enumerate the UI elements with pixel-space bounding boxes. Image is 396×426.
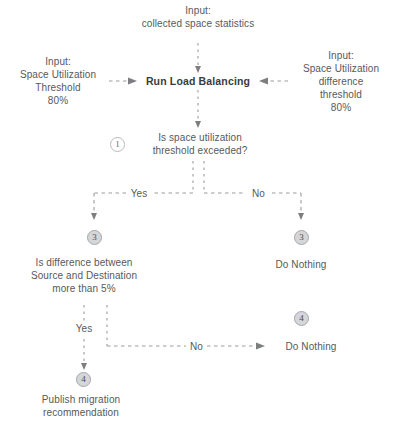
arrowhead-yes-bottom [81, 363, 87, 370]
arrowhead-no-bottom [256, 343, 265, 350]
step-badge-three-left: 3 [87, 230, 102, 245]
arrowhead-decision-one [195, 121, 201, 128]
arrowhead-input-right [259, 78, 268, 85]
arrowhead-input-top [195, 66, 201, 73]
step-badge-four-bottom: 4 [76, 372, 91, 387]
step-badge-one: 1 [110, 137, 125, 152]
edge-label-no-bottom: No [186, 340, 207, 353]
node-input-right: Input: Space Utilization difference thre… [288, 49, 394, 114]
node-decision-two: Is difference between Source and Destina… [18, 256, 150, 295]
arrowhead-yes-top [91, 213, 97, 220]
node-do-nothing-bottom: Do Nothing [268, 340, 354, 353]
arrowhead-input-left [128, 78, 137, 85]
step-badge-three-right: 3 [294, 230, 309, 245]
node-input-left: Input: Space Utilization Threshold 80% [6, 55, 110, 107]
edge-label-yes-bottom: Yes [71, 322, 97, 335]
node-process-main: Run Load Balancing [138, 75, 258, 88]
flowchart-canvas: Input: collected space statistics Input:… [0, 0, 396, 426]
node-do-nothing-right: Do Nothing [258, 258, 344, 271]
node-publish: Publish migration recommendation [16, 393, 146, 419]
step-badge-four-right: 4 [294, 311, 309, 326]
node-input-top: Input: collected space statistics [118, 4, 278, 30]
node-decision-one: Is space utilization threshold exceeded? [138, 131, 262, 157]
edge-label-no-top: No [245, 187, 272, 200]
arrowhead-no-top [298, 213, 304, 220]
edge-label-yes-top: Yes [126, 187, 152, 200]
